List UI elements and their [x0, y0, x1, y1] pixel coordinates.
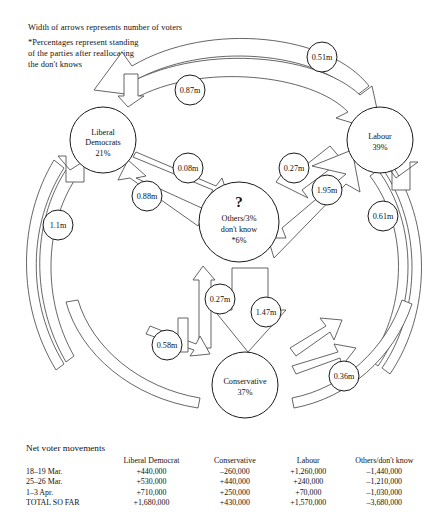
- node-labour-line1: Labour: [368, 132, 392, 141]
- table-row: 18–19 Mar. +440,000 –260,000 +1,260,000 …: [26, 467, 426, 478]
- cell-cons: +430,000: [196, 498, 274, 509]
- node-libdem[interactable]: Liberal Democrats 21%: [70, 107, 136, 173]
- edge-label-value: 0.27m: [210, 295, 231, 304]
- edge-label-value: 1.47m: [256, 308, 277, 317]
- edge-label-value: 0.36m: [334, 372, 355, 381]
- edge-label-value: 1.95m: [317, 186, 338, 195]
- node-others-line2: Others/3%: [221, 214, 256, 223]
- col-header-period: [26, 456, 107, 467]
- voter-flow-diagram: Liberal Democrats 21% Labour 39% Conserv…: [0, 0, 440, 440]
- cell-libdem: +1,680,000: [107, 498, 196, 509]
- edge-label-value: 0.51m: [312, 53, 333, 62]
- edge-label-value: 0.08m: [178, 164, 199, 173]
- edge-badge-lab-to-libdem-outer: 0.51m: [307, 42, 337, 72]
- net-voter-movements-table: Net voter movements Liberal Democrat Con…: [26, 443, 426, 509]
- diagram-page: Width of arrows represents number of vot…: [0, 0, 440, 515]
- table-title: Net voter movements: [26, 443, 426, 453]
- edge-label-value: 0.88m: [137, 192, 158, 201]
- edge-badge-lab-to-libdem-inner: 0.87m: [175, 75, 205, 105]
- cell-labour: +70,000: [274, 488, 343, 499]
- edge-badge-others-to-libdem: 0.88m: [132, 181, 162, 211]
- cell-others: –1,030,000: [343, 488, 426, 499]
- col-header-labour: Labour: [274, 456, 343, 467]
- edge-badge-labour-inflow: 0.61m: [368, 201, 398, 231]
- arrow-into-cons-upper-right: [290, 318, 342, 356]
- edge-badge-labour-to-others: 1.95m: [312, 175, 342, 205]
- edge-badge-libdem-to-cons: 0.58m: [152, 330, 182, 360]
- col-header-others: Others/don't know: [343, 456, 426, 467]
- node-libdem-line1: Liberal: [91, 128, 115, 137]
- cell-cons: +250,000: [196, 488, 274, 499]
- node-others-question-mark: ?: [235, 194, 243, 210]
- edge-badge-others-to-cons: 1.47m: [251, 297, 281, 327]
- cell-libdem: +440,000: [107, 467, 196, 478]
- col-header-cons: Conservative: [196, 456, 274, 467]
- table-row-total: TOTAL SO FAR +1,680,000 +430,000 +1,570,…: [26, 498, 426, 509]
- node-conservative-line1: Conservative: [223, 377, 267, 386]
- cell-cons: +440,000: [196, 477, 274, 488]
- cell-cons: –260,000: [196, 467, 274, 478]
- edge-badge-libdem-inflow: 1.1m: [43, 210, 73, 240]
- node-others-line4: *6%: [231, 236, 246, 245]
- cell-libdem: +710,000: [107, 488, 196, 499]
- node-conservative[interactable]: Conservative 37%: [212, 352, 278, 418]
- node-conservative-line2: 37%: [237, 388, 252, 397]
- edge-badge-cons-to-others: 0.27m: [205, 284, 235, 314]
- node-others[interactable]: ? Others/3% don't know *6%: [199, 182, 279, 262]
- edge-label-value: 0.87m: [180, 86, 201, 95]
- cell-labour: +1,570,000: [274, 498, 343, 509]
- edge-badge-others-to-labour: 0.27m: [279, 153, 309, 183]
- arrow-libdem-to-cons-outer: [66, 300, 200, 408]
- node-libdem-line3: 21%: [95, 149, 110, 158]
- row-label: 25–26 Mar.: [26, 477, 107, 488]
- cell-libdem: +530,000: [107, 477, 196, 488]
- cell-others: –1,210,000: [343, 477, 426, 488]
- edge-badge-libdem-to-others: 0.08m: [173, 153, 203, 183]
- node-labour[interactable]: Labour 39%: [347, 107, 413, 173]
- table: Liberal Democrat Conservative Labour Oth…: [26, 456, 426, 509]
- edge-label-value: 0.58m: [157, 341, 178, 350]
- cell-labour: +240,000: [274, 477, 343, 488]
- col-header-libdem: Liberal Democrat: [107, 456, 196, 467]
- row-label: TOTAL SO FAR: [26, 498, 107, 509]
- row-label: 18–19 Mar.: [26, 467, 107, 478]
- cell-labour: +1,260,000: [274, 467, 343, 478]
- node-libdem-line2: Democrats: [85, 138, 120, 147]
- cell-others: –3,680,000: [343, 498, 426, 509]
- table-row: 25–26 Mar. +530,000 +440,000 +240,000 –1…: [26, 477, 426, 488]
- edge-label-value: 0.27m: [284, 164, 305, 173]
- cell-others: –1,440,000: [343, 467, 426, 478]
- edge-label-value: 1.1m: [50, 221, 67, 230]
- edge-badge-cons-to-labour: 0.36m: [329, 361, 359, 391]
- edge-label-value: 0.61m: [373, 212, 394, 221]
- row-label: 1–3 Apr.: [26, 488, 107, 499]
- table-row: 1–3 Apr. +710,000 +250,000 +70,000 –1,03…: [26, 488, 426, 499]
- node-others-line3: don't know: [221, 225, 257, 234]
- table-header-row: Liberal Democrat Conservative Labour Oth…: [26, 456, 426, 467]
- node-labour-line2: 39%: [372, 143, 387, 152]
